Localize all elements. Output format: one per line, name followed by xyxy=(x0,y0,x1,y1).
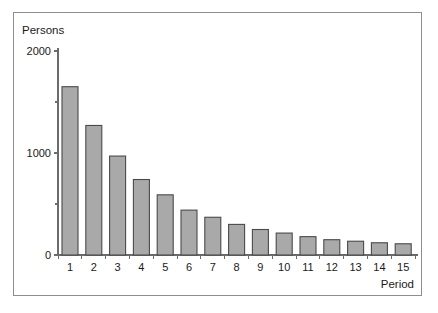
bar xyxy=(348,241,364,255)
x-axis-tick-label: 14 xyxy=(373,261,385,273)
x-axis-tick-label: 1 xyxy=(67,261,73,273)
x-axis-tick-label: 12 xyxy=(326,261,338,273)
bar xyxy=(395,244,411,255)
bar xyxy=(62,87,78,255)
chart-plot-area: 010002000123456789101112131415PersonsPer… xyxy=(0,0,438,313)
x-axis-tick-label: 6 xyxy=(186,261,192,273)
bar xyxy=(205,217,221,255)
bar xyxy=(110,156,126,255)
bar xyxy=(157,195,173,255)
y-axis-tick-label: 0 xyxy=(45,249,51,261)
y-axis-tick-label: 2000 xyxy=(27,45,51,57)
x-axis-title: Period xyxy=(381,278,414,290)
x-axis-tick-label: 13 xyxy=(349,261,361,273)
bar xyxy=(324,240,340,255)
x-axis-tick-label: 8 xyxy=(234,261,240,273)
x-axis-tick-label: 3 xyxy=(115,261,121,273)
bar xyxy=(300,237,316,255)
y-axis-title: Persons xyxy=(22,24,64,36)
x-axis-tick-label: 9 xyxy=(257,261,263,273)
x-axis-tick-label: 5 xyxy=(162,261,168,273)
bar xyxy=(133,180,149,255)
x-axis-tick-label: 11 xyxy=(302,261,313,273)
bar xyxy=(229,224,245,255)
bar xyxy=(371,243,387,255)
y-axis-tick-label: 1000 xyxy=(27,147,51,159)
x-axis-tick-label: 15 xyxy=(397,261,409,273)
x-axis-tick-label: 7 xyxy=(210,261,216,273)
bar xyxy=(276,233,292,255)
bar xyxy=(86,125,102,255)
bar xyxy=(181,210,197,255)
x-axis-tick-label: 2 xyxy=(91,261,97,273)
bar xyxy=(252,230,268,256)
x-axis-tick-label: 4 xyxy=(138,261,144,273)
bar-chart-figure: 010002000123456789101112131415PersonsPer… xyxy=(0,0,438,313)
x-axis-tick-label: 10 xyxy=(278,261,290,273)
